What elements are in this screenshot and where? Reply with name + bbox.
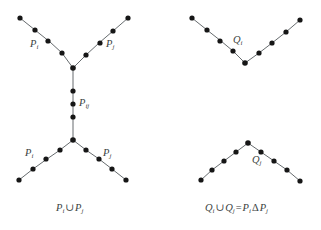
n-tl-junction: [70, 65, 76, 71]
n-bl-4: [16, 177, 21, 182]
n-rbl-2: [221, 158, 226, 163]
n-rt-apex: [242, 60, 248, 66]
n-rtr-1: [256, 50, 261, 55]
n-rtr-4: [297, 17, 302, 22]
caption-term-4: Pj: [260, 202, 268, 213]
n-rbl-4: [198, 177, 203, 182]
label-sub: i: [36, 43, 38, 51]
caption-term-3: Pi: [243, 202, 251, 213]
n-rtl-4: [230, 48, 235, 53]
label-bottom-right-qj: Qj: [252, 155, 261, 167]
n-br-2: [96, 156, 101, 161]
n-bl-junction: [70, 137, 76, 143]
n-bl-2: [43, 156, 48, 161]
caption-right: Qi∪Qj=PiΔPj: [205, 203, 268, 215]
n-tl-1: [17, 15, 22, 20]
caption-left: Pi∪Pj: [56, 203, 83, 215]
caption-operator-equals: =: [235, 202, 243, 213]
label-top-left-pi: Pi: [30, 39, 38, 51]
n-rtr-2: [269, 40, 274, 45]
label-sub: j: [109, 152, 111, 160]
caption-term-2: Pj: [75, 202, 83, 213]
path-graph-svg: [0, 0, 321, 230]
n-br-1: [83, 147, 88, 152]
n-br-3: [109, 166, 114, 171]
label-middle-pij: Pij: [79, 98, 89, 110]
figure-canvas: Pi Pj Pij Pi Pj Qi Qj Pi∪Pj Qi∪Qj=PiΔPj: [0, 0, 321, 230]
label-sub: i: [241, 39, 243, 47]
n-rtl-1: [189, 15, 194, 20]
n-rbr-4: [297, 178, 302, 183]
label-sub: i: [31, 152, 33, 160]
n-tl-2: [32, 27, 37, 32]
label-sub: ij: [85, 102, 89, 110]
label-base: Q: [252, 154, 260, 165]
n-tl-4: [59, 50, 64, 55]
n-stem-1: [70, 88, 75, 93]
caption-operator-delta: Δ: [251, 202, 260, 213]
n-bl-1: [57, 147, 62, 152]
n-rtl-3: [217, 38, 222, 43]
n-rtl-2: [204, 27, 209, 32]
label-top-right-qi: Qi: [233, 35, 242, 47]
n-tl-3: [45, 38, 50, 43]
n-tr-1: [83, 52, 88, 57]
n-stem-3: [70, 114, 75, 119]
label-top-left-pj: Pj: [106, 39, 114, 51]
label-bottom-left-pi: Pi: [25, 148, 33, 160]
n-rb-apex: [245, 140, 251, 146]
label-bottom-left-pj: Pj: [103, 148, 111, 160]
n-rbr-3: [284, 167, 289, 172]
n-tr-2: [97, 40, 102, 45]
label-sub: j: [112, 43, 114, 51]
label-base: Q: [233, 34, 241, 45]
n-stem-2: [70, 101, 75, 106]
n-rtr-3: [283, 29, 288, 34]
n-rbl-3: [209, 167, 214, 172]
n-rbr-2: [271, 158, 276, 163]
label-sub: j: [260, 159, 262, 167]
n-br-4: [123, 177, 128, 182]
caption-operator-union: ∪: [214, 202, 225, 213]
n-rbl-1: [233, 149, 238, 154]
caption-operator-union: ∪: [64, 202, 75, 213]
caption-term-2: Qj: [225, 202, 234, 213]
n-tr-4: [125, 15, 130, 20]
n-tr-3: [110, 28, 115, 33]
n-bl-3: [30, 166, 35, 171]
